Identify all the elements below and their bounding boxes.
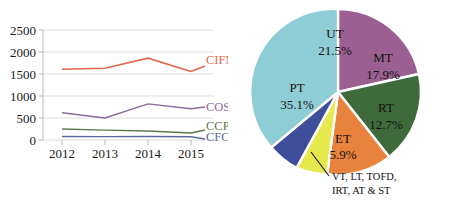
figure-container: 2500 2000 1500 1000 500 0 2012 2013 2014… [0,0,450,207]
x-tick-marks [62,140,191,145]
pie-value-mt: 17.9% [366,67,400,82]
pie-value-rt: 12.7% [369,117,403,132]
y-tick-label-1500: 1500 [10,67,36,82]
gridlines [43,30,214,140]
pie-value-et: 5.9% [329,147,356,162]
pie-annotation-line2: IRT, AT & ST [332,185,391,196]
pie-label-ut: UT [326,26,343,41]
pie-label-mt: MT [373,50,393,65]
x-tick-label-2013: 2013 [92,146,118,161]
pie-label-pt: PT [289,80,304,95]
y-tick-label-1000: 1000 [10,89,36,104]
y-tick-label-2500: 2500 [10,23,36,38]
pie-chart-panel: UT 21.5% MT 17.9% RT 12.7% ET 5.9% PT 35… [228,0,450,207]
y-tick-label-2000: 2000 [10,45,36,60]
y-tick-label-500: 500 [17,111,37,126]
series-line-cosac [62,104,191,118]
pie-value-ut: 21.5% [318,43,352,58]
series-line-cifm [62,58,191,71]
series-leader-ccpm [191,130,205,133]
line-chart-svg: 2500 2000 1500 1000 500 0 2012 2013 2014… [0,0,228,207]
pie-annotation-line1: VT, LT, TOFD, [332,171,396,182]
series-label-cfcm: CFCM [206,130,228,144]
line-chart-panel: 2500 2000 1500 1000 500 0 2012 2013 2014… [0,0,228,207]
x-tick-label-2014: 2014 [135,146,162,161]
series-leader-cfcm [191,137,205,139]
series-leader-cosac [191,107,205,109]
series-label-cosac: COSAC [206,100,228,114]
pie-label-et: ET [335,131,351,146]
series-line-ccpm [62,129,191,133]
y-tick-marks [39,30,43,140]
pie-value-pt: 35.1% [280,97,314,112]
series-leader-cifm [191,66,205,71]
x-tick-label-2015: 2015 [178,146,204,161]
series-label-cifm: CIFM [206,53,228,67]
pie-chart-svg: UT 21.5% MT 17.9% RT 12.7% ET 5.9% PT 35… [228,0,450,207]
x-tick-label-2012: 2012 [49,146,75,161]
y-tick-label-0: 0 [30,133,37,148]
pie-label-rt: RT [378,100,394,115]
